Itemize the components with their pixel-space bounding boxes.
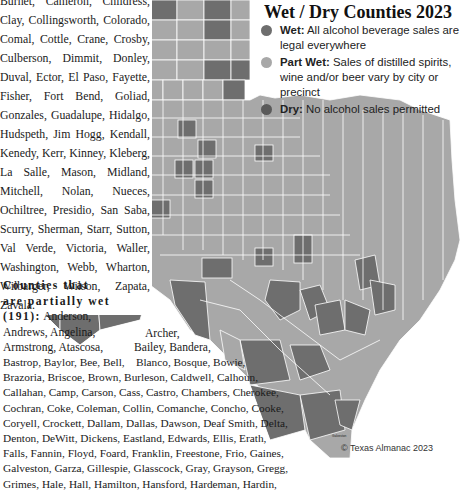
legend-part-wet-label: Part Wet:: [280, 56, 330, 68]
legend-wet-desc: All alcohol beverage sales are legal eve…: [280, 24, 459, 51]
partial-wet-float-0: Archer,: [145, 327, 180, 340]
partial-wet-line-8: Denton, DeWitt, Dickens, Eastland, Edwar…: [3, 431, 333, 446]
wet-counties-list: Burnet, Cameron, Childress, Clay, Collin…: [0, 0, 152, 315]
partial-wet-line-11: Grimes, Hale, Hall, Hamilton, Hansford, …: [3, 477, 333, 492]
wet-dot-icon: [261, 25, 272, 36]
partial-wet-line-10: Galveston, Garza, Gillespie, Glasscock, …: [3, 461, 333, 476]
legend-item-wet: Wet: All alcohol beverage sales are lega…: [250, 23, 471, 53]
partial-wet-line-2: Armstrong, Atascosa,: [3, 341, 103, 354]
partial-wet-float-1: Bailey, Bandera,: [134, 341, 211, 354]
legend-dry-label: Dry:: [280, 103, 303, 115]
partial-wet-float-2: Blanco, Bosque, Bowie,: [136, 356, 246, 368]
part-wet-dot-icon: [261, 57, 272, 68]
partial-wet-lines: Bastrop, Baylor, Bee, Bell, Blanco, Bosq…: [3, 355, 333, 492]
partial-wet-line-6: Cochran, Coke, Coleman, Collin, Comanche…: [3, 401, 333, 416]
label-galveston: Galveston: [332, 434, 347, 438]
partial-wet-line-1: Andrews, Angelina,: [3, 326, 95, 339]
partial-wet-heading-block: Counties that are partially wet (191): A…: [3, 278, 113, 356]
partial-wet-line-9: Falls, Fannin, Floyd, Foard, Franklin, F…: [3, 446, 333, 461]
legend-item-part-wet: Part Wet: Sales of distilled spirits, wi…: [250, 55, 471, 100]
legend: Wet / Dry Counties 2023 Wet: All alcohol…: [250, 0, 471, 119]
legend-item-dry: Dry: No alcohol sales permitted: [250, 102, 471, 117]
partial-wet-line-0: Anderson,: [43, 310, 91, 323]
dry-dot-icon: [261, 104, 272, 115]
legend-dry-desc: No alcohol sales permitted: [306, 103, 440, 115]
map-title: Wet / Dry Counties 2023: [264, 2, 471, 23]
wet-counties-text: Burnet, Cameron, Childress, Clay, Collin…: [0, 0, 150, 315]
credit: © Texas Almanac 2023: [341, 443, 433, 453]
partial-wet-line-4: Brazoria, Briscoe, Brown, Burleson, Cald…: [3, 370, 333, 385]
partial-wet-line-5: Callahan, Camp, Carson, Cass, Castro, Ch…: [3, 385, 333, 400]
partial-wet-line-3: Bastrop, Baylor, Bee, Bell,: [3, 356, 125, 368]
legend-wet-label: Wet:: [280, 24, 304, 36]
partial-wet-line-7: Coryell, Crockett, Dallam, Dallas, Dawso…: [3, 416, 333, 431]
